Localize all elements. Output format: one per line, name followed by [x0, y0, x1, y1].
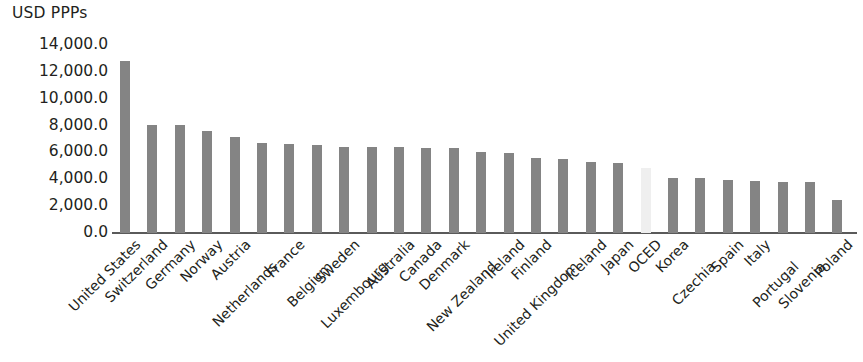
- bar: [257, 143, 267, 233]
- bar: [476, 152, 486, 233]
- x-axis-tick-label: Italy: [742, 237, 773, 268]
- bar: [312, 145, 322, 233]
- bar: [449, 148, 459, 233]
- y-axis-tick-label: 8,000.0: [0, 118, 108, 134]
- bar: [832, 200, 842, 233]
- bar-chart: USD PPPs 0.02,000.04,000.06,000.08,000.0…: [0, 0, 863, 362]
- y-axis-tick-label: 10,000.0: [0, 91, 108, 107]
- y-axis-tick-label: 12,000.0: [0, 64, 108, 80]
- y-axis: 0.02,000.04,000.06,000.08,000.010,000.01…: [0, 45, 108, 241]
- y-axis-tick-label: 6,000.0: [0, 145, 108, 161]
- y-axis-tick-label: 0.0: [0, 225, 108, 241]
- bar: [175, 125, 185, 233]
- y-axis-tick-label: 4,000.0: [0, 172, 108, 188]
- bar: [202, 131, 212, 233]
- x-axis-tick-label: France: [264, 237, 307, 280]
- bar: [531, 158, 541, 233]
- bar: [805, 182, 815, 233]
- bar: [613, 163, 623, 233]
- bar: [723, 180, 733, 233]
- bar: [284, 144, 294, 233]
- bar: [558, 159, 568, 233]
- bar: [394, 147, 404, 233]
- bar: [367, 147, 377, 233]
- bar: [504, 153, 514, 233]
- y-axis-tick-label: 14,000.0: [0, 37, 108, 53]
- bar: [147, 125, 157, 234]
- plot-area: [112, 45, 857, 233]
- bar: [586, 162, 596, 233]
- x-axis-tick-label: Poland: [812, 237, 855, 280]
- x-axis-labels: United StatesSwitzerlandGermanyNorwayAus…: [112, 233, 863, 362]
- y-axis-title: USD PPPs: [12, 4, 88, 22]
- x-axis-tick-label: Spain: [708, 237, 746, 275]
- bar: [695, 178, 705, 233]
- bar: [339, 147, 349, 233]
- bar: [750, 181, 760, 233]
- bar: [230, 137, 240, 233]
- bar: [778, 182, 788, 233]
- bar: [641, 168, 651, 233]
- bar: [421, 148, 431, 233]
- y-axis-tick-label: 2,000.0: [0, 198, 108, 214]
- bar: [120, 61, 130, 233]
- bar: [668, 178, 678, 233]
